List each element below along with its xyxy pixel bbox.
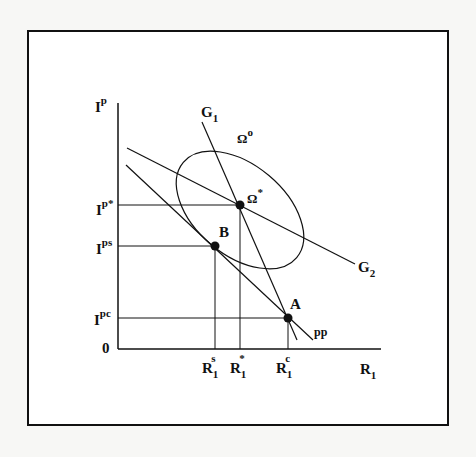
label-A: A — [290, 296, 301, 312]
point-A — [284, 314, 293, 323]
label-pp: pp — [314, 325, 328, 339]
origin-label: 0 — [102, 340, 110, 356]
point-B — [211, 242, 220, 251]
diagram-canvas: Ip R1 0 Ip* Ips Ipc R1s R1* R1c G1 G2 pp… — [0, 0, 476, 457]
label-B: B — [219, 224, 229, 240]
point-omega-star — [236, 201, 245, 210]
